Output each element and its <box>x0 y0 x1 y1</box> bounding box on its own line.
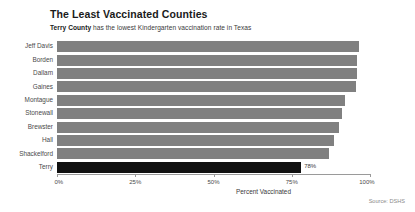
bar <box>57 55 357 66</box>
bar-row: Terry78% <box>57 161 370 174</box>
y-axis-label: Hall <box>42 136 53 143</box>
x-axis-tick <box>214 174 215 177</box>
bar-row: Jeff Davis <box>57 40 370 53</box>
bar-row: Dallam <box>57 67 370 80</box>
bar-row: Gaines <box>57 80 370 93</box>
bar <box>57 135 334 146</box>
y-axis-label: Shackelford <box>19 150 53 157</box>
bar <box>57 81 356 92</box>
bar-row: Stonewall <box>57 107 370 120</box>
chart-container: The Least Vaccinated Counties Terry Coun… <box>0 0 415 212</box>
bar-row: Brewster <box>57 120 370 133</box>
x-axis-tick <box>370 174 371 177</box>
y-axis-label: Dallam <box>33 69 53 76</box>
x-axis-tick-label: 25% <box>129 179 141 185</box>
bar <box>57 108 342 119</box>
chart-subtitle-rest: has the lowest Kindergarten vaccination … <box>91 24 251 31</box>
y-axis-label: Gaines <box>33 83 53 90</box>
x-axis-tick-label: 100% <box>359 179 374 185</box>
y-axis-label: Stonewall <box>25 109 53 116</box>
chart-title: The Least Vaccinated Counties <box>50 8 208 20</box>
bar <box>57 41 359 52</box>
x-axis-tick <box>292 174 293 177</box>
plot-area: Jeff DavisBordenDallamGainesMontagueSton… <box>57 40 370 174</box>
y-axis-label: Jeff Davis <box>25 42 53 49</box>
bar-row: Shackelford <box>57 147 370 160</box>
x-axis-tick <box>135 174 136 177</box>
bar <box>57 162 301 173</box>
y-axis-label: Brewster <box>28 123 53 130</box>
bar <box>57 95 345 106</box>
bar <box>57 68 357 79</box>
x-axis-tick-label: 0% <box>54 179 63 185</box>
bar-value-label: 78% <box>304 163 316 169</box>
bar-row: Hall <box>57 134 370 147</box>
chart-subtitle-emphasis: Terry County <box>50 24 91 31</box>
x-axis-tick <box>57 174 58 177</box>
bar-row: Borden <box>57 53 370 66</box>
source-note: Source: DSHS <box>369 198 405 204</box>
bar-row: Montague <box>57 94 370 107</box>
y-axis-label: Borden <box>32 56 53 63</box>
bar <box>57 122 339 133</box>
x-axis-tick-label: 75% <box>286 179 298 185</box>
x-axis-title: Percent Vaccinated <box>0 188 415 195</box>
y-axis-label: Montague <box>25 96 53 103</box>
chart-subtitle: Terry County has the lowest Kindergarten… <box>50 24 251 31</box>
x-axis-tick-label: 50% <box>207 179 219 185</box>
bar <box>57 148 329 159</box>
y-axis-label: Terry <box>39 163 53 170</box>
